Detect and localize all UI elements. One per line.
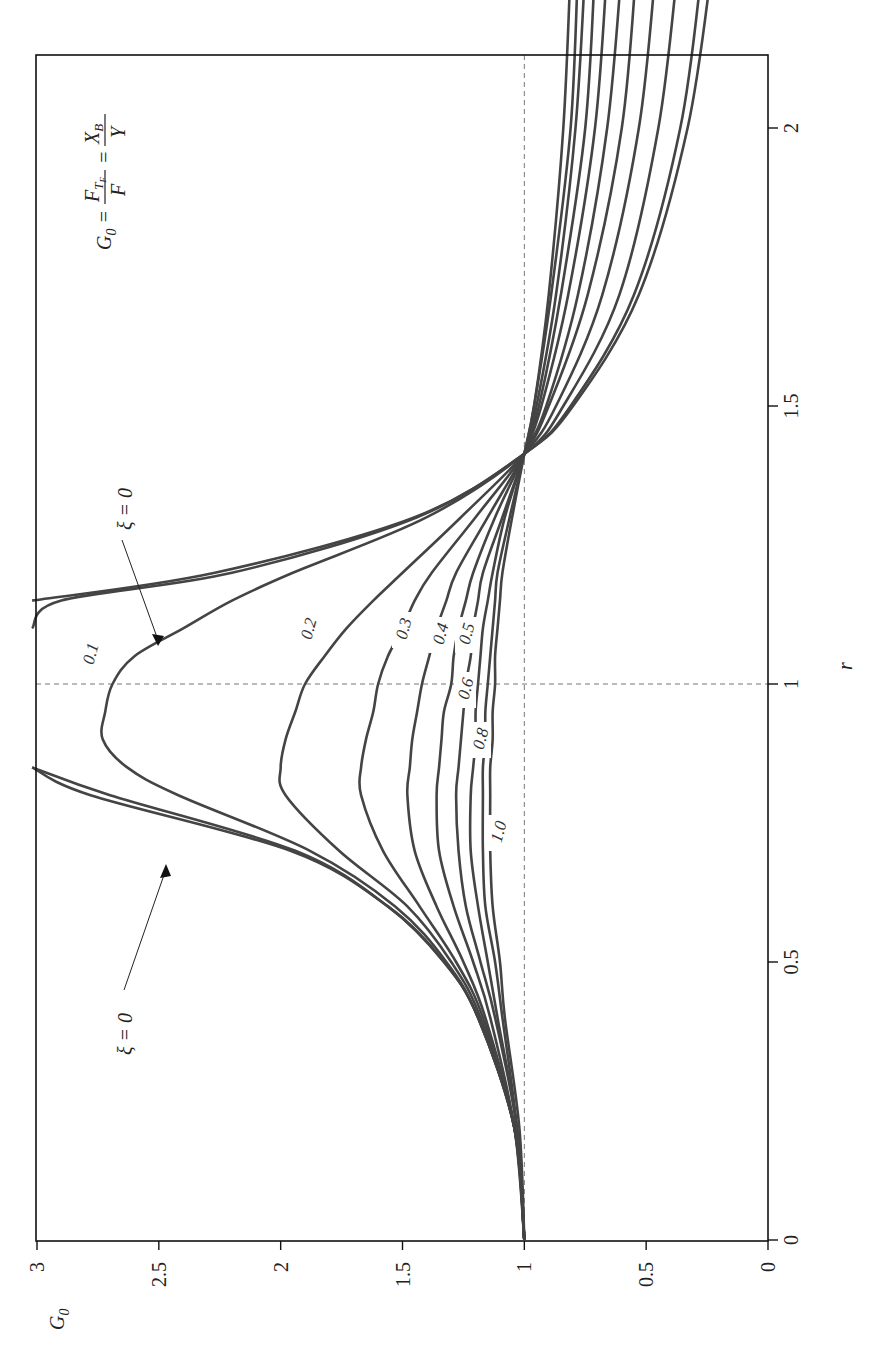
axis-ticks: 00.511.522.5300.511.52: [26, 123, 802, 1287]
curve-xi-0.1: [32, 767, 524, 1240]
svg-text:Y: Y: [107, 125, 129, 138]
transmissibility-chart: 0.10.20.30.40.50.60.81.0 00.511.522.5300…: [0, 0, 881, 1365]
g0-tick-label: 3: [26, 1262, 48, 1272]
g0-tick-label: 1: [513, 1262, 535, 1272]
curve-labels: 0.10.20.30.40.50.60.81.0: [79, 612, 511, 851]
g0-axis-title: G0: [46, 1309, 72, 1330]
svg-text:G0 =: G0 =: [93, 210, 119, 250]
r-tick-label: 2: [780, 123, 802, 133]
formula: G0 = FTF F = XB Y: [81, 114, 129, 250]
g0-tick-label: 0.5: [635, 1262, 657, 1287]
r-tick-label: 0: [780, 1235, 802, 1245]
curve-xi-0.8: [470, 0, 585, 1240]
r-tick-label: 1.5: [780, 394, 802, 419]
r-tick-label: 1: [780, 679, 802, 689]
svg-text:XB: XB: [81, 124, 106, 145]
xi-zero-arrow-bottom: [124, 872, 165, 990]
g0-tick-label: 1.5: [392, 1262, 414, 1287]
curve-xi-0.1: [32, 0, 702, 628]
xi-zero-label-bottom: ξ = 0: [114, 1013, 136, 1055]
g0-tick-label: 0: [757, 1262, 779, 1272]
xi-zero-label-top: ξ = 0: [114, 488, 136, 530]
svg-text:F: F: [107, 183, 129, 197]
curve-xi-0.2: [101, 0, 677, 1240]
g0-tick-label: 2: [270, 1262, 292, 1272]
svg-text:=: =: [93, 151, 115, 165]
arrowhead-icon: [160, 864, 171, 878]
r-tick-label: 0.5: [780, 950, 802, 975]
curve-xi-ξ = 0: [32, 767, 524, 1240]
g0-tick-label: 2.5: [148, 1262, 170, 1287]
svg-text:FTF: FTF: [81, 177, 108, 203]
r-axis-title: r: [834, 662, 856, 670]
